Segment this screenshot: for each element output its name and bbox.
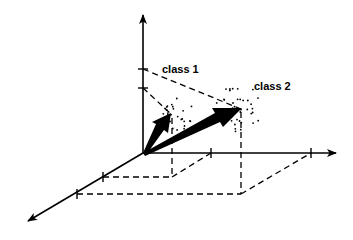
- cluster-point: [172, 128, 174, 130]
- cluster-point: [177, 116, 179, 118]
- cluster-point: [240, 129, 242, 131]
- cluster-point: [250, 103, 252, 105]
- cluster-point: [171, 104, 173, 106]
- cluster-point: [237, 98, 239, 100]
- cluster-point: [250, 113, 252, 115]
- cluster-point: [231, 120, 233, 122]
- cluster-point: [223, 99, 225, 101]
- class-1-floor-width: [172, 153, 211, 177]
- cluster-point: [183, 120, 185, 122]
- cluster-point: [234, 128, 236, 130]
- cluster-point: [162, 113, 164, 115]
- cluster-point: [182, 110, 184, 112]
- cluster-point: [229, 88, 231, 90]
- cluster-point: [239, 99, 241, 101]
- depth-axis: [28, 153, 143, 221]
- cluster-point: [191, 106, 193, 108]
- cluster-point: [240, 122, 242, 124]
- cluster-point: [232, 88, 234, 90]
- cluster-point: [252, 122, 254, 124]
- cluster-point: [242, 100, 244, 102]
- cluster-point: [247, 100, 249, 102]
- feature-space-diagram: class 1 class 2: [0, 0, 353, 240]
- class-2-label: class 2: [254, 80, 291, 92]
- cluster-point: [234, 106, 236, 108]
- cluster-point: [190, 120, 192, 122]
- cluster-point: [234, 124, 236, 126]
- cluster-point: [176, 129, 178, 131]
- class-1-label: class 1: [162, 63, 199, 75]
- cluster-point: [167, 105, 169, 107]
- cluster-point: [252, 112, 254, 114]
- cluster-point: [164, 107, 166, 109]
- class-2-floor-width: [241, 153, 311, 194]
- cluster-point: [166, 109, 168, 111]
- cluster-point: [180, 119, 182, 121]
- cluster-point: [237, 88, 239, 90]
- cluster-point: [246, 109, 248, 111]
- cluster-point: [184, 125, 186, 127]
- cluster-point: [257, 97, 259, 99]
- cluster-point: [232, 102, 234, 104]
- cluster-point: [176, 98, 178, 100]
- cluster-point: [235, 130, 237, 132]
- cluster-point: [225, 88, 227, 90]
- cluster-point: [252, 108, 254, 110]
- cluster-point: [216, 102, 218, 104]
- cluster-point: [173, 108, 175, 110]
- cluster-point: [236, 119, 238, 121]
- cluster-point: [239, 111, 241, 113]
- cluster-point: [257, 120, 259, 122]
- cluster-point: [239, 120, 241, 122]
- cluster-point: [183, 128, 185, 130]
- cluster-point: [172, 106, 174, 108]
